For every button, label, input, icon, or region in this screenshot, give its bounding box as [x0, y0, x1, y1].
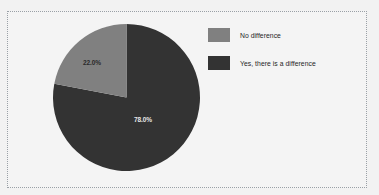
chart-legend: No difference Yes, there is a difference	[208, 28, 358, 84]
legend-swatch-icon-yes-there-is-a-difference	[208, 56, 230, 70]
pie-label-no-difference: 22.0%	[83, 59, 101, 66]
legend-label-no-difference: No difference	[240, 32, 281, 39]
legend-label-yes-there-is-a-difference: Yes, there is a difference	[240, 60, 316, 67]
pie-chart[interactable]	[49, 20, 204, 175]
plot-area: 22.0% 78.0% No difference Yes, there is …	[8, 12, 368, 189]
legend-item-no-difference[interactable]: No difference	[208, 28, 358, 42]
legend-item-yes-there-is-a-difference[interactable]: Yes, there is a difference	[208, 56, 358, 70]
pie-label-yes-there-is-a-difference: 78.0%	[134, 116, 152, 123]
chart-frame: 22.0% 78.0% No difference Yes, there is …	[7, 11, 367, 188]
legend-swatch-icon-no-difference	[208, 28, 230, 42]
